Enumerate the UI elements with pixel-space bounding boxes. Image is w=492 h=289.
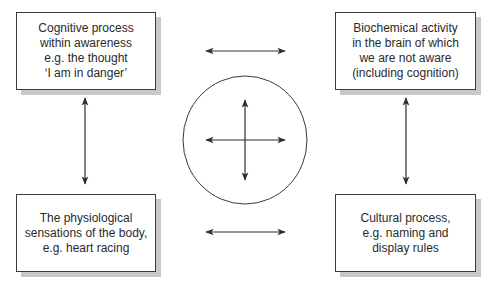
connector-layer [0, 0, 492, 289]
